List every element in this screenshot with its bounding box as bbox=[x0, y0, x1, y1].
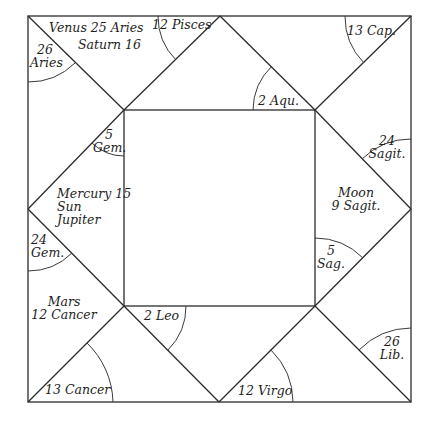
label-line: Gem. bbox=[93, 141, 125, 154]
label-line: 2 Leo bbox=[144, 309, 179, 322]
label-line: Saturn 16 bbox=[49, 38, 159, 51]
label-line: 12 Pisces bbox=[152, 18, 212, 31]
label-mercury-sun-jupiter: Mercury 15 Sun Jupiter bbox=[57, 187, 131, 226]
label-venus-saturn: Venus 25 Aries Saturn 16 bbox=[49, 21, 159, 51]
label-line: 13 Cap. bbox=[347, 24, 396, 37]
label-line: Aries bbox=[30, 56, 60, 69]
label-sagittarius-5: 5 Sag. bbox=[316, 244, 346, 270]
label-line: Jupiter bbox=[57, 213, 131, 226]
label-mars: Mars 12 Cancer bbox=[30, 295, 98, 321]
label-line: 9 Sagit. bbox=[322, 199, 390, 212]
label-gemini-24: 24 Gem. bbox=[31, 233, 64, 259]
label-libra: 26 Lib. bbox=[375, 335, 409, 361]
label-pisces: 12 Pisces bbox=[152, 18, 212, 31]
inner-square bbox=[124, 110, 315, 306]
label-line: Lib. bbox=[375, 348, 409, 361]
label-line: 12 Cancer bbox=[30, 308, 98, 321]
label-line: Sagit. bbox=[365, 147, 409, 160]
label-line: 12 Virgo bbox=[238, 384, 292, 397]
label-line: Gem. bbox=[31, 246, 64, 259]
label-sagittarius-24: 24 Sagit. bbox=[365, 134, 409, 160]
label-leo: 2 Leo bbox=[144, 309, 179, 322]
label-virgo: 12 Virgo bbox=[238, 384, 292, 397]
label-aquarius: 2 Aqu. bbox=[258, 94, 299, 107]
label-line: Venus 25 Aries bbox=[49, 21, 159, 34]
label-gemini-5: 5 Gem. bbox=[93, 128, 125, 154]
label-line: Sag. bbox=[316, 257, 346, 270]
label-line: 2 Aqu. bbox=[258, 94, 299, 107]
label-cancer-13: 13 Cancer bbox=[45, 383, 110, 396]
label-moon: Moon 9 Sagit. bbox=[322, 186, 390, 212]
label-capricorn: 13 Cap. bbox=[347, 24, 396, 37]
label-line: 13 Cancer bbox=[45, 383, 110, 396]
